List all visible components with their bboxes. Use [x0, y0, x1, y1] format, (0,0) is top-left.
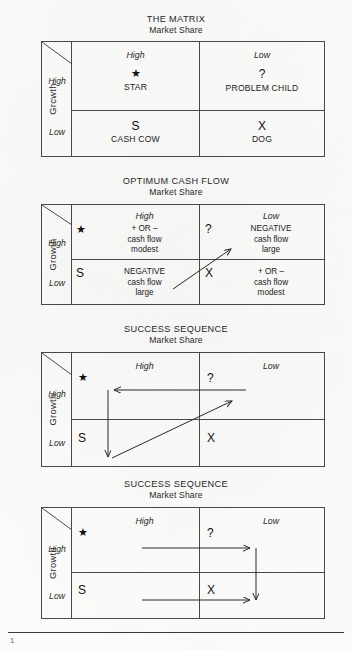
cell-dog: X DOG	[199, 120, 325, 145]
diagram-subtitle-1: Market Share	[0, 25, 352, 35]
row-label-high-1: High	[42, 76, 72, 86]
diagram-title-block-1: THE MATRIX Market Share	[0, 14, 352, 35]
column-header-high-1: High	[72, 50, 199, 60]
cell-problem-child: ? PROBLEM CHILD	[199, 68, 325, 94]
horizontal-divider-1	[72, 110, 324, 111]
x-letter-icon: X	[199, 120, 325, 132]
diagram-title-2: OPTIMUM CASH FLOW	[0, 176, 352, 187]
bcg-matrix-success-sequence-1: Growth High Low High Low ★ ? S X	[41, 352, 325, 467]
arrow-overlay-2	[42, 205, 326, 306]
s-letter-icon: S	[72, 120, 199, 132]
cell-cash-cow: S CASH COW	[72, 120, 199, 145]
diagonal-up-right-arrow-2	[173, 249, 231, 289]
cell-label-dog: DOG	[199, 134, 325, 145]
cell-label-cash-cow: CASH COW	[72, 134, 199, 145]
arrow-overlay-3	[42, 353, 326, 468]
diagram-title-1: THE MATRIX	[0, 14, 352, 25]
diagonal-up-right-arrow-3	[112, 401, 232, 458]
diagram-subtitle-2: Market Share	[0, 187, 352, 197]
diagram-title-block-2: OPTIMUM CASH FLOW Market Share	[0, 176, 352, 197]
scanned-page: THE MATRIX Market Share Grcwth High Low …	[0, 0, 352, 650]
diagram-title-block-4: SUCCESS SEQUENCE Market Share	[0, 479, 352, 500]
row-label-low-1: Low	[42, 127, 72, 137]
footer-page-mark: 1	[10, 636, 14, 645]
arrow-overlay-4	[42, 508, 326, 620]
bcg-matrix-success-sequence-2: Growth High Low High Low ★ ? S X	[41, 507, 325, 619]
diagram-subtitle-4: Market Share	[0, 490, 352, 500]
diagram-title-block-3: SUCCESS SEQUENCE Market Share	[0, 324, 352, 345]
column-header-low-1: Low	[199, 50, 325, 60]
star-icon: ★	[72, 68, 199, 79]
bcg-matrix-the-matrix: Grcwth High Low High Low ★ STAR ? PROBLE…	[41, 41, 325, 157]
diagram-subtitle-3: Market Share	[0, 335, 352, 345]
cell-label-problem-child: PROBLEM CHILD	[199, 83, 325, 94]
question-mark-icon: ?	[199, 68, 325, 80]
cell-label-star: STAR	[72, 82, 199, 93]
footer-rule	[8, 632, 344, 633]
cell-star: ★ STAR	[72, 68, 199, 93]
y-axis-label-wrap-1: Grcwth	[36, 42, 58, 156]
diagram-title-4: SUCCESS SEQUENCE	[0, 479, 352, 490]
bcg-matrix-optimum-cash-flow: Growth High Low High Low ★ + OR – cash f…	[41, 204, 325, 305]
diagram-title-3: SUCCESS SEQUENCE	[0, 324, 352, 335]
